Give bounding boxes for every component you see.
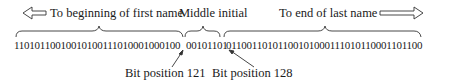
label-bit-position-128: Bit position 128: [212, 66, 293, 80]
braces: [16, 26, 421, 37]
last-name-bits: 01100110101100101000111010110001101100: [226, 39, 422, 51]
middle-initial-bits: 00101101: [186, 39, 228, 51]
left-hollow-arrow-icon: [23, 7, 46, 19]
label-middle-initial: Middle initial: [179, 6, 247, 20]
last-name-brace: [224, 26, 421, 37]
pointer-arrows: [172, 50, 254, 67]
label-to-beginning-of-first-name: To beginning of first name: [50, 6, 183, 20]
first-name-brace: [16, 26, 183, 37]
label-bit-position-121: Bit position 121: [125, 66, 206, 80]
label-to-end-of-last-name: To end of last name: [279, 6, 377, 20]
right-hollow-arrow-icon: [380, 7, 423, 19]
first-name-bits: 11010110010010100111010001000100: [14, 39, 180, 51]
middle-initial-brace: [185, 26, 220, 37]
